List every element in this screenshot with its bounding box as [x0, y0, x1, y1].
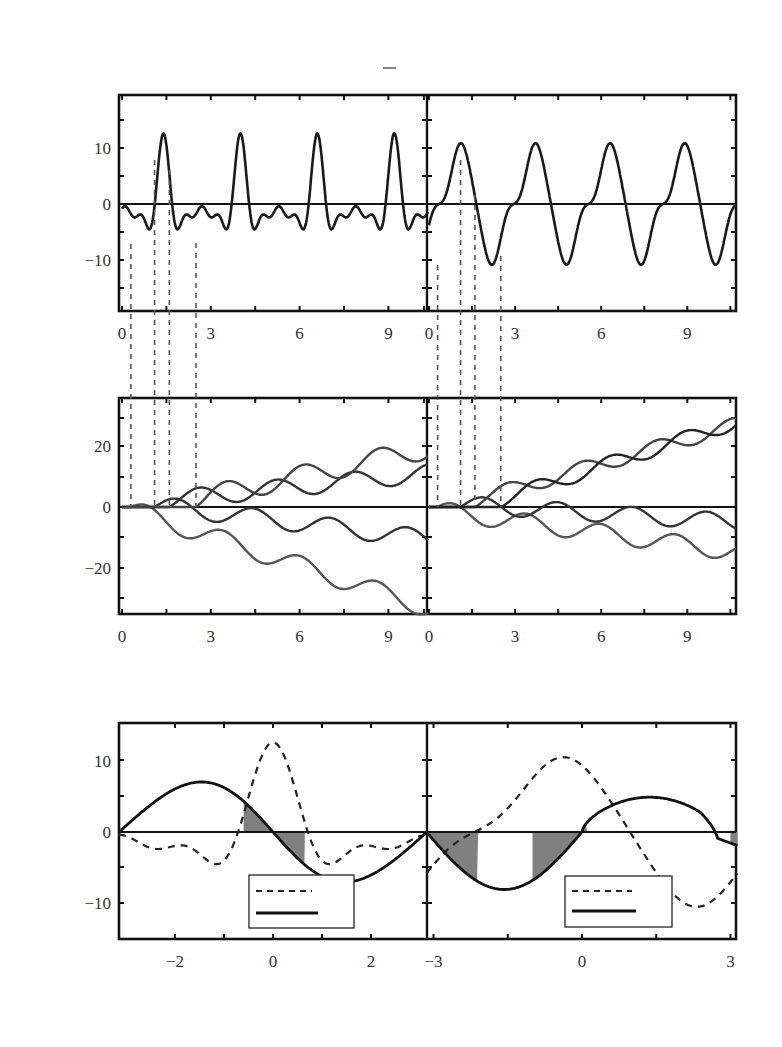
- displacement-trajectory-left: [122, 499, 428, 541]
- panel-c-drift-velocity: −202−303100−10: [84, 723, 737, 971]
- x-tick-label: 0: [425, 627, 434, 646]
- shaded-region-right: [429, 832, 479, 881]
- x-tick-label: 6: [597, 324, 606, 343]
- x-tick-label: 9: [683, 627, 692, 646]
- panel-a-laser-field: 03690369100−10: [84, 95, 736, 343]
- y-tick-label: −10: [84, 894, 111, 913]
- y-tick-label: −10: [84, 251, 111, 270]
- x-tick-label: 0: [578, 952, 587, 971]
- x-tick-label: 9: [384, 627, 393, 646]
- x-tick-label: 0: [425, 324, 434, 343]
- y-tick-label: 20: [94, 437, 111, 456]
- laser-field-curve-phi0: [122, 133, 428, 229]
- y-tick-label: 10: [94, 752, 111, 771]
- x-tick-label: −3: [424, 952, 442, 971]
- y-tick-label: −20: [84, 559, 111, 578]
- x-tick-label: −2: [166, 952, 184, 971]
- x-tick-label: 0: [118, 627, 127, 646]
- x-tick-label: 6: [597, 627, 606, 646]
- y-tick-label: 10: [94, 139, 111, 158]
- x-tick-label: 9: [683, 324, 692, 343]
- EL-dashed-curve-left: [119, 743, 427, 865]
- x-tick-label: 2: [367, 952, 376, 971]
- x-tick-label: 6: [295, 324, 304, 343]
- x-tick-label: 6: [295, 627, 304, 646]
- x-tick-label: 0: [269, 952, 278, 971]
- displacement-trajectory-right: [429, 503, 736, 558]
- y-tick-label: 0: [103, 195, 112, 214]
- x-tick-label: 3: [511, 324, 520, 343]
- dashed-time-markers: [131, 160, 501, 507]
- panel-b-displacement: 03690369200−20: [84, 398, 736, 646]
- x-tick-label: 3: [511, 627, 520, 646]
- x-tick-label: 0: [118, 324, 127, 343]
- y-tick-label: 0: [103, 823, 112, 842]
- x-tick-label: 9: [384, 324, 393, 343]
- y-tick-label: 0: [103, 498, 112, 517]
- x-tick-label: 3: [207, 627, 216, 646]
- figure-canvas: 03690369100−10 03690369200−20 −202−30310…: [0, 0, 782, 1047]
- displacement-trajectory-left: [122, 448, 428, 507]
- displacement-trajectory-right: [429, 497, 736, 529]
- x-tick-label: 3: [726, 952, 735, 971]
- x-tick-label: 3: [207, 324, 216, 343]
